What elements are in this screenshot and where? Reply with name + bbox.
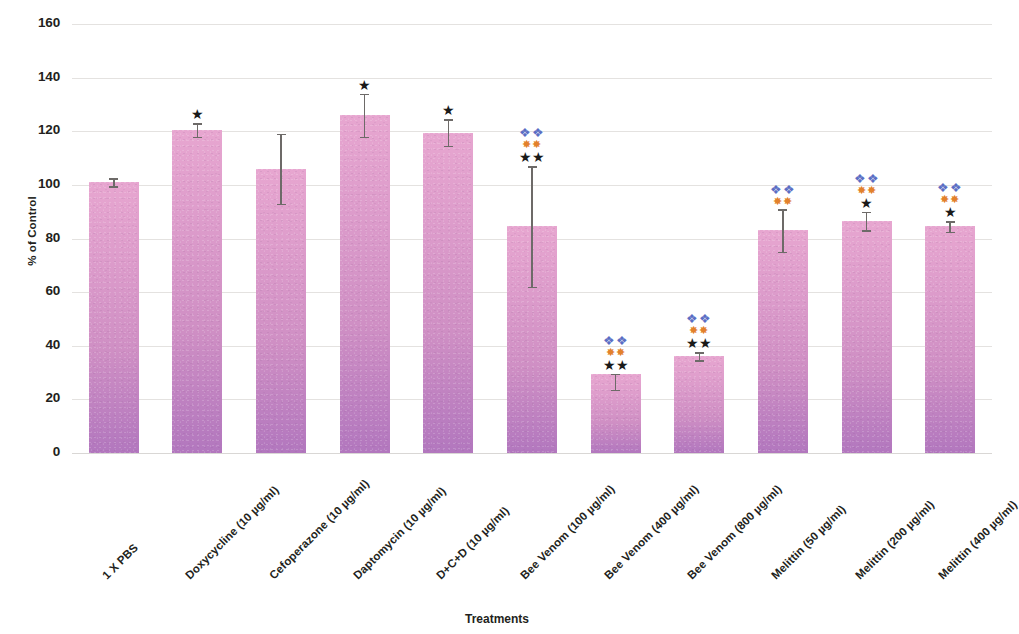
significance-marker-star: ★★ <box>686 336 712 350</box>
error-bar <box>364 94 366 137</box>
significance-marker-star: ★ <box>191 107 204 121</box>
bar <box>256 169 306 453</box>
significance-markers: ★ <box>167 107 227 121</box>
error-bar-cap <box>695 352 704 354</box>
error-bar <box>782 209 784 252</box>
bar <box>925 226 975 453</box>
significance-markers: ❖❖✸✸ <box>753 183 813 207</box>
x-axis-category-label: Melittin (200 µg/ml) <box>853 498 936 581</box>
error-bar-cap <box>528 287 537 289</box>
significance-marker-star: ★ <box>944 205 957 219</box>
bar-texture <box>925 226 975 453</box>
error-bar-cap <box>611 374 620 376</box>
error-bar-cap <box>109 178 118 180</box>
error-bar-cap <box>862 212 871 214</box>
error-bar-cap <box>778 209 787 211</box>
bar-texture <box>758 230 808 453</box>
error-bar-cap <box>778 252 787 254</box>
bar <box>423 133 473 453</box>
gridline <box>72 24 992 25</box>
y-axis-tick-label: 100 <box>14 176 60 191</box>
error-bar-cap <box>528 166 537 168</box>
significance-markers: ❖❖✸✸★ <box>920 181 980 219</box>
significance-markers: ❖❖✸✸★ <box>837 172 897 210</box>
gridline <box>72 78 992 79</box>
error-bar-cap <box>946 232 955 234</box>
error-bar-cap <box>444 146 453 148</box>
error-bar-cap <box>277 204 286 206</box>
significance-marker-star: ★★ <box>603 358 629 372</box>
error-bar-cap <box>109 186 118 188</box>
x-axis-title: Treatments <box>0 612 994 626</box>
error-bar-cap <box>444 119 453 121</box>
x-axis-category-label: 1 X PBS <box>100 541 140 581</box>
error-bar-cap <box>695 360 704 362</box>
error-bar-cap <box>193 137 202 139</box>
bar <box>842 221 892 453</box>
error-bar <box>197 123 199 136</box>
x-axis-category-label: D+C+D (10 µg/ml) <box>434 504 511 581</box>
significance-marker-blue: ❖❖ <box>854 172 880 185</box>
bar-texture <box>674 356 724 453</box>
y-axis-tick-label: 60 <box>14 283 60 298</box>
bar-texture <box>340 115 390 453</box>
x-axis-category-label: Cefoperazone (10 µg/ml) <box>267 477 371 581</box>
error-bar-cap <box>946 221 955 223</box>
x-axis-category-label: Bee Venom (800 µg/ml) <box>685 483 784 582</box>
x-axis-category-label: Melittin (50 µg/ml) <box>769 503 848 582</box>
significance-markers: ❖❖✸✸★★ <box>586 334 646 372</box>
significance-markers: ❖❖✸✸★★ <box>669 312 729 350</box>
error-bar-cap <box>360 137 369 139</box>
bar-texture <box>842 221 892 453</box>
error-bar <box>615 374 617 390</box>
x-axis-category-label: Bee Venom (100 µg/ml) <box>518 483 617 582</box>
bar <box>89 182 139 453</box>
bar-texture <box>423 133 473 453</box>
significance-marker-star: ★★ <box>519 150 545 164</box>
error-bar <box>949 221 951 232</box>
significance-markers: ❖❖✸✸★★ <box>502 126 562 164</box>
bar-texture <box>172 130 222 453</box>
y-axis-tick-label: 160 <box>14 15 60 30</box>
x-axis-category-label: Daptomycin (10 µg/ml) <box>351 485 448 582</box>
gridline <box>72 453 992 454</box>
significance-marker-orange: ✸✸ <box>773 196 793 207</box>
y-axis-tick-label: 0 <box>14 444 60 459</box>
y-axis-tick-label: 80 <box>14 230 60 245</box>
y-axis-tick-label: 20 <box>14 390 60 405</box>
error-bar <box>531 166 533 287</box>
bar-texture <box>256 169 306 453</box>
y-axis-tick-label: 120 <box>14 122 60 137</box>
x-axis-category-label: Bee Venom (400 µg/ml) <box>602 483 701 582</box>
error-bar-cap <box>360 94 369 96</box>
x-axis-category-label: Melittin (400 µg/ml) <box>936 498 1019 581</box>
error-bar-cap <box>193 123 202 125</box>
error-bar <box>448 119 450 146</box>
significance-marker-blue: ❖❖ <box>603 334 629 347</box>
bar <box>674 356 724 453</box>
error-bar-cap <box>277 134 286 136</box>
bar <box>758 230 808 453</box>
bar <box>172 130 222 453</box>
error-bar <box>280 134 282 204</box>
error-bar-cap <box>862 230 871 232</box>
error-bar <box>866 212 868 231</box>
significance-marker-star: ★ <box>442 103 455 117</box>
significance-marker-star: ★ <box>358 78 371 92</box>
significance-markers: ★ <box>418 103 478 117</box>
significance-marker-star: ★ <box>860 196 873 210</box>
bar <box>340 115 390 453</box>
error-bar-cap <box>611 390 620 392</box>
bar-texture <box>89 182 139 453</box>
x-axis-category-label: Doxycycline (10 µg/ml) <box>183 484 281 582</box>
significance-markers: ★ <box>335 78 395 92</box>
y-axis-tick-label: 40 <box>14 337 60 352</box>
y-axis-tick-label: 140 <box>14 69 60 84</box>
